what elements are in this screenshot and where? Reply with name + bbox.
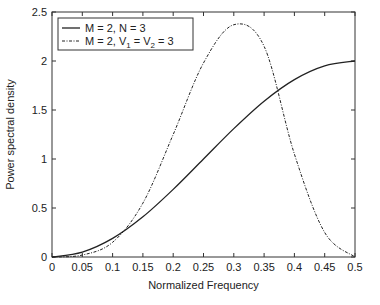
y-axis-label: Power spectral density: [4, 79, 16, 190]
y-tick-label: 0.5: [32, 202, 47, 214]
x-tick-label: 0.15: [132, 261, 153, 273]
y-tick-label: 2: [41, 55, 47, 67]
x-tick-label: 0.1: [105, 261, 120, 273]
y-tick-label: 1.5: [32, 104, 47, 116]
legend-entry-1: M = 2, N = 3: [85, 22, 146, 34]
y-tick-label: 1: [41, 153, 47, 165]
y-tick-label: 0: [41, 251, 47, 263]
x-tick-label: 0.05: [72, 261, 93, 273]
x-tick-label: 0: [49, 261, 55, 273]
psd-chart: 00.050.10.150.20.250.30.350.40.450.500.5…: [0, 0, 380, 305]
x-tick-label: 0.5: [347, 261, 362, 273]
x-axis-label: Normalized Frequency: [148, 279, 259, 291]
x-tick-label: 0.2: [166, 261, 181, 273]
x-tick-label: 0.4: [287, 261, 302, 273]
series-line-solid: [52, 61, 355, 257]
x-tick-label: 0.45: [314, 261, 335, 273]
x-tick-label: 0.25: [193, 261, 214, 273]
x-tick-label: 0.3: [226, 261, 241, 273]
series-line-dashdot: [52, 24, 355, 257]
y-tick-label: 2.5: [32, 6, 47, 18]
x-tick-label: 0.35: [253, 261, 274, 273]
